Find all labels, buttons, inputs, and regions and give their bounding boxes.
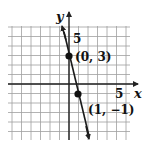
line-arrow-top bbox=[62, 26, 66, 40]
point-0-3 bbox=[65, 52, 72, 59]
point-a-label: (0, 3) bbox=[75, 50, 111, 64]
point-b-label: (1, −1) bbox=[88, 103, 134, 117]
graph: x y 5 5 (0, 3) (1, −1) bbox=[0, 0, 146, 149]
y-axis-label: y bbox=[55, 9, 65, 24]
x-axis-label: x bbox=[133, 86, 142, 101]
y-tick-5: 5 bbox=[73, 32, 81, 46]
point-1-neg1 bbox=[74, 90, 81, 97]
x-tick-5: 5 bbox=[115, 87, 123, 101]
